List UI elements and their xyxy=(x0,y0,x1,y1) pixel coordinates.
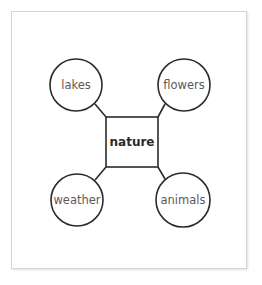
center-node: nature xyxy=(106,117,158,167)
node-animals: animals xyxy=(156,173,210,227)
node-label: lakes xyxy=(61,78,91,92)
concept-web-diagram: nature lakes flowers weather animals xyxy=(0,0,262,285)
node-label: flowers xyxy=(163,78,204,92)
center-label: nature xyxy=(110,135,155,149)
connector-top-right xyxy=(158,104,165,117)
node-lakes: lakes xyxy=(50,59,102,111)
node-flowers: flowers xyxy=(158,59,210,111)
node-weather: weather xyxy=(51,174,103,226)
connector-top-left xyxy=(95,104,106,117)
connector-bottom-left xyxy=(95,167,106,180)
node-label: weather xyxy=(53,193,100,207)
node-label: animals xyxy=(161,193,206,207)
connector-bottom-right xyxy=(158,167,165,179)
